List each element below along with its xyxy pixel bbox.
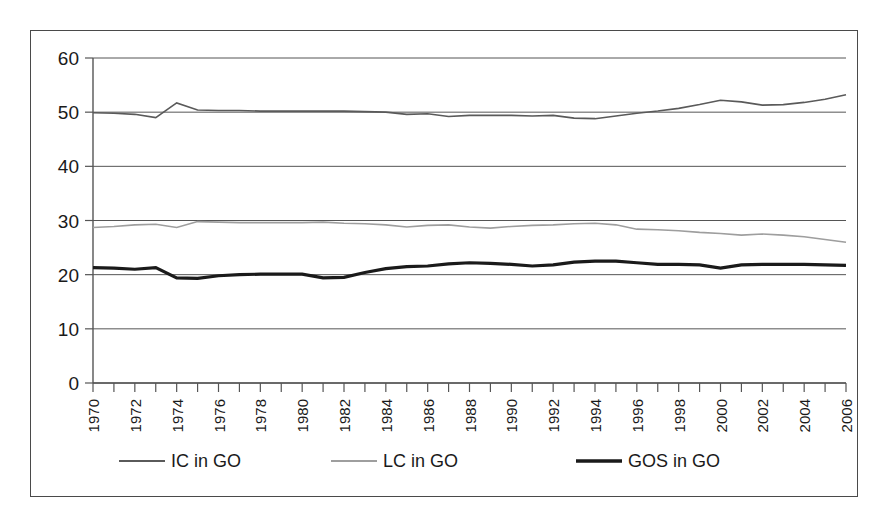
x-tick-label: 2002: [754, 399, 771, 432]
x-tick-label: 1976: [211, 399, 228, 432]
y-tick-label: 60: [58, 48, 79, 69]
chart-frame: 0102030405060197019721974197619781980198…: [30, 30, 858, 497]
gridlines-group: 0102030405060: [58, 48, 846, 394]
x-tick-label: 2004: [796, 399, 813, 432]
legend-label-ic-in-go: IC in GO: [171, 451, 241, 471]
series-line-ic-in-go: [93, 95, 846, 119]
x-tick-label: 2006: [838, 399, 855, 432]
y-tick-label: 10: [58, 319, 79, 340]
line-chart: 0102030405060197019721974197619781980198…: [31, 31, 856, 495]
x-tick-label: 1990: [503, 399, 520, 432]
x-tick-label: 1984: [378, 399, 395, 432]
legend-label-lc-in-go: LC in GO: [383, 451, 458, 471]
x-tick-label: 1996: [629, 399, 646, 432]
x-tick-label: 1986: [420, 399, 437, 432]
legend-label-gos-in-go: GOS in GO: [628, 451, 720, 471]
chart-figure: 0102030405060197019721974197619781980198…: [0, 0, 888, 521]
x-tick-label: 1982: [336, 399, 353, 432]
x-tick-label: 1978: [252, 399, 269, 432]
x-tick-label: 1972: [127, 399, 144, 432]
x-tick-label: 1980: [294, 399, 311, 432]
x-tick-label: 1974: [169, 399, 186, 432]
y-tick-label: 50: [58, 102, 79, 123]
legend: IC in GOLC in GOGOS in GO: [119, 451, 720, 471]
x-tick-label: 1970: [85, 399, 102, 432]
x-tick-label: 1992: [545, 399, 562, 432]
x-tick-label: 1998: [671, 399, 688, 432]
x-tick-label: 1994: [587, 399, 604, 432]
x-axis-group: 1970197219741976197819801982198419861988…: [85, 383, 855, 432]
y-tick-label: 40: [58, 156, 79, 177]
x-tick-label: 2000: [713, 399, 730, 432]
y-tick-label: 20: [58, 265, 79, 286]
y-tick-label: 0: [68, 373, 79, 394]
series-line-gos-in-go: [93, 261, 846, 278]
series-line-lc-in-go: [93, 222, 846, 243]
y-tick-label: 30: [58, 211, 79, 232]
x-tick-label: 1988: [462, 399, 479, 432]
